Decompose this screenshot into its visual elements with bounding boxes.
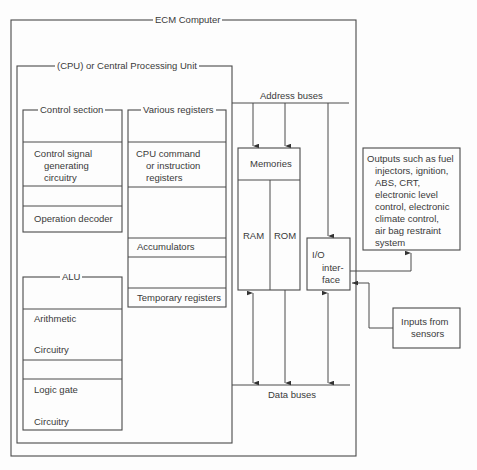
data-buses-label: Data buses (268, 389, 316, 401)
outputs-label-7: air bag restraint (375, 225, 441, 237)
outputs-label-8: system (375, 237, 405, 249)
outputs-label-4: electronic level (375, 189, 438, 201)
alu-arithmetic-circuitry-label: Circuitry (34, 344, 69, 356)
ram-label: RAM (243, 230, 264, 242)
control-signal-label-1: Control signal (34, 148, 92, 160)
outputs-label-5: control, electronic (375, 201, 449, 213)
accumulators-label: Accumulators (137, 241, 195, 253)
cpu-command-label-3: registers (146, 172, 182, 184)
cpu-command-label-1: CPU command (136, 148, 200, 160)
temporary-registers-label: Temporary registers (137, 292, 221, 304)
cpu-title: (CPU) or Central Processing Unit (55, 60, 199, 72)
alu-title: ALU (60, 271, 82, 283)
cpu-command-label-2: or instruction (146, 160, 200, 172)
outputs-label-1: Outputs such as fuel (367, 153, 454, 165)
alu-logic-circuitry-label: Circuitry (34, 416, 69, 428)
control-signal-label-2: generating (44, 160, 89, 172)
alu-logic-gate-label: Logic gate (34, 384, 78, 396)
registers-title: Various registers (141, 104, 216, 116)
memories-label: Memories (250, 158, 292, 170)
operation-decoder-label: Operation decoder (34, 213, 113, 225)
rom-label: ROM (274, 230, 296, 242)
control-section-title: Control section (38, 104, 105, 116)
inputs-label-2: sensors (411, 328, 444, 340)
outputs-label-6: climate control, (375, 213, 439, 225)
io-label-2: inter- (322, 262, 344, 274)
address-buses-label: Address buses (260, 90, 323, 102)
outputs-label-3: ABS, CRT, (375, 177, 420, 189)
inputs-label-1: Inputs from (401, 316, 449, 328)
outputs-label-2: injectors, ignition, (375, 165, 448, 177)
io-label-3: face (322, 274, 340, 286)
alu-arithmetic-label: Arithmetic (34, 313, 76, 325)
ecm-computer-title: ECM Computer (153, 14, 222, 26)
registers-box (128, 110, 226, 307)
control-signal-label-3: circuitry (44, 172, 77, 184)
io-label-1: I/O (312, 249, 325, 261)
